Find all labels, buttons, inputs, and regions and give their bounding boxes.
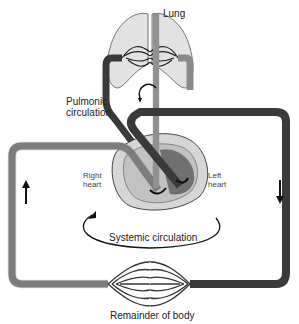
label-remainder-of-body: Remainder of body [110, 310, 195, 321]
label-right-heart: Right heart [83, 172, 102, 190]
arrow-up-icon [22, 180, 30, 204]
circulation-diagram [0, 0, 299, 324]
label-pulmonic-line2: circulation [66, 107, 111, 118]
label-right-line2: heart [83, 181, 102, 190]
label-pulmonic-line1: Pulmonic [66, 96, 111, 107]
label-lung: Lung [163, 8, 185, 19]
label-left-line2: heart [208, 181, 226, 190]
label-systemic-circulation: Systemic circulation [109, 232, 197, 243]
body-capillary-bed [108, 262, 190, 306]
lungs [107, 13, 193, 88]
label-pulmonic-circulation: Pulmonic circulation [66, 96, 111, 118]
label-left-heart: Left heart [208, 172, 226, 190]
